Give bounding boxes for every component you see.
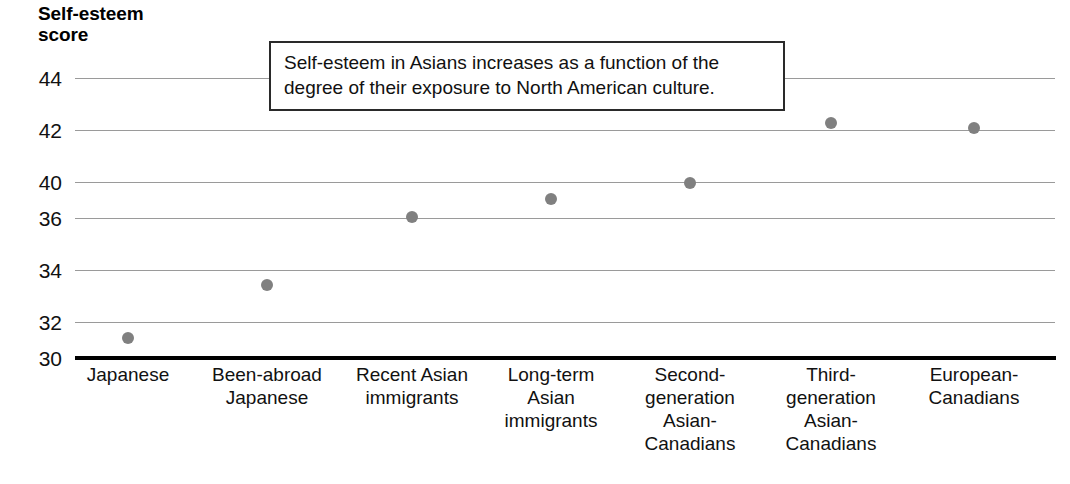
data-point [261,279,273,291]
data-point [406,211,418,223]
gridline [75,270,1055,271]
self-esteem-scatter-chart: Self-esteem score 44424036343230 Japanes… [0,0,1070,484]
y-axis-tick-label: 42 [16,120,62,141]
plot-area [75,70,1055,358]
data-point [684,177,696,189]
data-point [122,332,134,344]
x-axis-category-label: Japanese [53,363,203,386]
y-axis-tick-label: 44 [16,68,62,89]
x-axis-category-label: Long-term Asian immigrants [476,363,626,432]
y-axis-tick-label: 40 [16,172,62,193]
data-point [825,117,837,129]
x-axis-category-label: Been-abroad Japanese [192,363,342,409]
x-axis-category-labels: JapaneseBeen-abroad JapaneseRecent Asian… [75,363,1055,481]
data-point [545,193,557,205]
x-axis-category-label: Second- generation Asian- Canadians [615,363,765,455]
gridline [75,322,1055,323]
x-axis-baseline [75,356,1056,360]
x-axis-category-label: European- Canadians [899,363,1049,409]
x-axis-category-label: Recent Asian immigrants [337,363,487,409]
y-axis-tick-label: 32 [16,312,62,333]
gridline [75,130,1055,131]
gridline [75,218,1055,219]
gridline [75,182,1055,183]
y-axis-tick-label: 36 [16,208,62,229]
annotation-callout: Self-esteem in Asians increases as a fun… [269,41,785,111]
y-axis-tick-label: 34 [16,260,62,281]
x-axis-category-label: Third- generation Asian- Canadians [756,363,906,455]
data-point [968,122,980,134]
y-axis-tick-labels: 44424036343230 [16,0,62,484]
